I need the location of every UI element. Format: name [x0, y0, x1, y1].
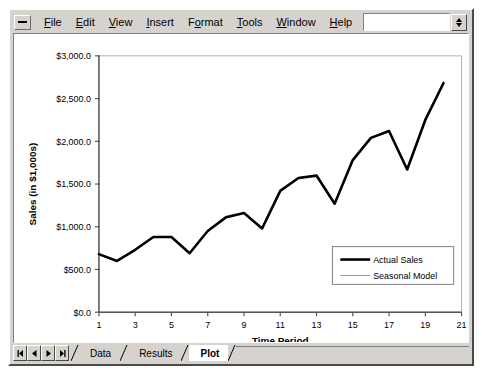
y-axis-title: Sales (in $1,000s)	[27, 143, 38, 226]
tab-strip-empty-area	[236, 346, 469, 361]
sales-line-chart: $0.0$500.0$1,000.0$1,500.0$2,000.0$2,500…	[14, 34, 468, 342]
tab-data[interactable]: Data	[79, 346, 120, 361]
first-record-button[interactable]	[13, 345, 27, 361]
x-tick-label: 9	[241, 320, 246, 330]
sheet-tabs: DataResultsPlot	[71, 345, 469, 361]
document-client-area: $0.0$500.0$1,000.0$1,500.0$2,000.0$2,500…	[13, 33, 469, 343]
x-tick-label: 15	[348, 320, 358, 330]
spinner-down-arrow-icon	[456, 23, 462, 27]
x-tick-label: 13	[312, 320, 322, 330]
x-tick-label: 21	[457, 320, 467, 330]
left-arrow-icon	[30, 349, 39, 358]
menu-item-tools[interactable]: Tools	[230, 15, 270, 29]
spinner-up-arrow-icon	[456, 18, 462, 22]
y-tick-label: $3,000.0	[56, 51, 91, 61]
menu-bar-filler	[363, 13, 450, 31]
sheet-tab-strip: DataResultsPlot	[13, 343, 469, 361]
window-menu-icon[interactable]	[14, 15, 31, 30]
last-arrow-icon	[58, 349, 67, 358]
menu-bar: File Edit View Insert Format Tools Windo…	[12, 12, 470, 32]
legend-label-1: Actual Sales	[373, 255, 423, 265]
tab-results[interactable]: Results	[128, 346, 181, 361]
menu-item-format[interactable]: Format	[181, 15, 230, 29]
x-tick-label: 11	[276, 320, 285, 330]
x-tick-label: 17	[384, 320, 394, 330]
menu-item-edit[interactable]: Edit	[69, 15, 102, 29]
y-tick-label: $0.0	[74, 308, 91, 318]
menu-items: File Edit View Insert Format Tools Windo…	[37, 15, 359, 29]
x-tick-label: 1	[96, 320, 101, 330]
last-record-button[interactable]	[55, 345, 69, 361]
previous-record-button[interactable]	[27, 345, 41, 361]
menu-item-insert[interactable]: Insert	[139, 15, 181, 29]
sheet-nav-buttons	[13, 345, 69, 361]
x-tick-label: 5	[169, 320, 174, 330]
window-menu-dash	[18, 21, 27, 23]
first-arrow-icon	[16, 349, 25, 358]
menu-item-help[interactable]: Help	[323, 15, 360, 29]
tab-separator-end	[228, 345, 236, 361]
tab-separator	[181, 345, 189, 361]
x-tick-label: 3	[133, 320, 138, 330]
y-tick-label: $1,000.0	[56, 222, 91, 232]
y-tick-label: $500.0	[64, 265, 91, 275]
updown-spinner-icon[interactable]	[451, 14, 467, 31]
application-window: File Edit View Insert Format Tools Windo…	[8, 8, 474, 366]
menu-item-window[interactable]: Window	[269, 15, 322, 29]
x-tick-label: 7	[205, 320, 210, 330]
tab-plot[interactable]: Plot	[189, 345, 228, 361]
x-tick-label: 19	[420, 320, 430, 330]
y-tick-label: $2,500.0	[56, 94, 91, 104]
legend-label-2: Seasonal Model	[373, 271, 437, 281]
next-record-button[interactable]	[41, 345, 55, 361]
tab-separator	[71, 345, 79, 361]
x-axis-title: Time Period	[252, 335, 309, 342]
menu-item-file[interactable]: File	[37, 15, 69, 29]
tab-separator	[120, 345, 128, 361]
right-arrow-icon	[44, 349, 53, 358]
y-tick-label: $1,500.0	[56, 180, 91, 190]
y-tick-label: $2,000.0	[56, 137, 91, 147]
menu-item-view[interactable]: View	[102, 15, 140, 29]
